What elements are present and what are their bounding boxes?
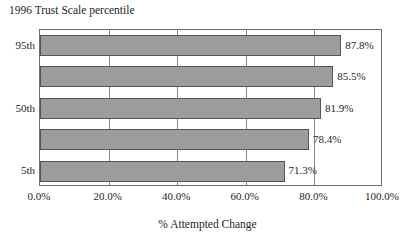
- bar[interactable]: [40, 161, 285, 182]
- y-axis-label-50th: 50th: [15, 103, 35, 114]
- bar-slot: [40, 156, 381, 187]
- x-axis-tick-label: 100.0%: [365, 190, 399, 202]
- bar-value-label: 81.9%: [325, 103, 353, 114]
- bar-value-label: 78.4%: [313, 134, 341, 145]
- x-axis-tick-labels: 0.0%20.0%40.0%60.0%80.0%100.0%: [39, 190, 382, 206]
- bar-slot: [40, 61, 381, 92]
- x-axis-title: % Attempted Change: [0, 217, 415, 231]
- chart-title: 1996 Trust Scale percentile: [9, 3, 135, 17]
- bar[interactable]: [40, 35, 341, 56]
- x-axis-tick-label: 60.0%: [231, 190, 259, 202]
- x-axis-tick-label: 40.0%: [162, 190, 190, 202]
- y-axis-category-labels: 95th50th5th: [0, 29, 35, 186]
- x-axis-tick-label: 20.0%: [93, 190, 121, 202]
- x-axis-tick-label: 80.0%: [299, 190, 327, 202]
- bar-value-label: 85.5%: [337, 71, 365, 82]
- bar-slot: [40, 30, 381, 61]
- x-axis-tick-label: 0.0%: [28, 190, 51, 202]
- bar-value-label: 87.8%: [345, 40, 373, 51]
- y-axis-label-5th: 5th: [21, 165, 35, 176]
- y-axis-label-95th: 95th: [15, 40, 35, 51]
- bar[interactable]: [40, 66, 333, 87]
- bar[interactable]: [40, 129, 309, 150]
- bar-value-label: 71.3%: [289, 165, 317, 176]
- bar[interactable]: [40, 98, 321, 119]
